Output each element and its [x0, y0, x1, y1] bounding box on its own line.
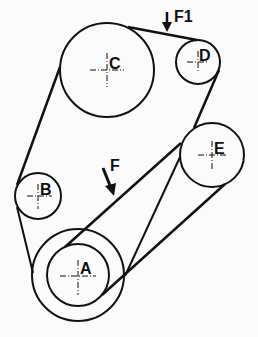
belt-segment-a-e-lower [102, 184, 225, 295]
belt-segment-a-e-upper [65, 143, 181, 247]
label-d: D [199, 47, 211, 64]
force-arrow-f1 [162, 12, 172, 32]
belt-segment-a-outer-e [125, 157, 180, 276]
belt-drive-diagram: C D E B A F1 F [0, 0, 258, 337]
label-e: E [214, 140, 225, 157]
label-a: A [80, 260, 92, 277]
belt-segment-c-d [128, 27, 197, 40]
label-c: C [109, 55, 121, 72]
belt-segment-b-c [17, 67, 60, 185]
label-f: F [110, 157, 120, 174]
label-b: B [40, 181, 52, 198]
label-f1: F1 [174, 8, 193, 25]
belt-segment-d-e [194, 70, 219, 128]
